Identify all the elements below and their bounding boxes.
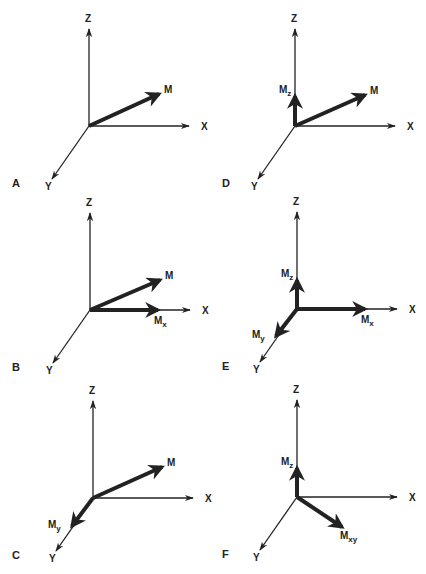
z-axis-label: Z <box>291 13 297 24</box>
panel-c: ZXYCMMy <box>12 385 212 564</box>
panel-f: ZXYFMzMxy <box>222 384 416 563</box>
vector-m <box>90 280 160 310</box>
vector-label-my: My <box>48 519 61 533</box>
magnetization-vector-diagram: ZXYAMZXYBMMxZXYCMMyZXYDMzMZXYEMzMxMyZXYF… <box>0 0 426 574</box>
vector-m <box>93 467 162 498</box>
vector-m <box>89 94 159 126</box>
y-axis <box>260 497 297 550</box>
vector-label-m: M <box>165 270 173 281</box>
z-axis-label: Z <box>86 197 92 208</box>
x-axis-label: X <box>407 121 414 132</box>
x-axis-label: X <box>201 121 208 132</box>
z-axis-label: Z <box>293 196 299 207</box>
y-axis-label: Y <box>253 364 260 375</box>
panel-b: ZXYBMMx <box>12 197 209 376</box>
y-axis-label: Y <box>49 553 56 564</box>
panel-label-e: E <box>222 360 229 372</box>
vector-m <box>295 95 365 126</box>
panel-label-b: B <box>12 361 20 373</box>
x-axis-label: X <box>202 305 209 316</box>
vector-mxy <box>297 497 342 527</box>
panel-label-c: C <box>12 549 20 561</box>
vector-label-m: M <box>370 85 378 96</box>
z-axis-label: Z <box>293 384 299 395</box>
z-axis-label: Z <box>89 385 95 396</box>
vector-label-mx: Mx <box>361 314 374 328</box>
panel-label-f: F <box>222 548 229 560</box>
y-axis-label: Y <box>251 181 258 192</box>
vector-label-mz: Mz <box>281 456 293 470</box>
y-axis-label: Y <box>46 365 53 376</box>
vector-label-mz: Mz <box>281 268 293 282</box>
panel-e: ZXYEMzMxMy <box>222 196 416 375</box>
y-axis <box>53 310 90 363</box>
y-axis <box>258 126 295 179</box>
y-axis <box>52 126 89 179</box>
vector-label-mz: Mz <box>279 84 291 98</box>
z-axis-label: Z <box>85 13 91 24</box>
vector-my <box>276 309 297 336</box>
vector-label-mxy: Mxy <box>340 530 358 544</box>
vector-label-my: My <box>252 329 265 343</box>
vector-label-mx: Mx <box>154 315 167 329</box>
panel-label-d: D <box>222 177 230 189</box>
x-axis-label: X <box>205 493 212 504</box>
vector-label-m: M <box>164 84 172 95</box>
panel-a: ZXYAM <box>12 13 208 192</box>
x-axis-label: X <box>409 492 416 503</box>
vector-label-m: M <box>167 457 175 468</box>
x-axis-label: X <box>409 304 416 315</box>
y-axis-label: Y <box>45 181 52 192</box>
vector-my <box>72 498 93 526</box>
panel-d: ZXYDMzM <box>222 13 414 192</box>
panel-label-a: A <box>12 177 20 189</box>
y-axis-label: Y <box>253 552 260 563</box>
